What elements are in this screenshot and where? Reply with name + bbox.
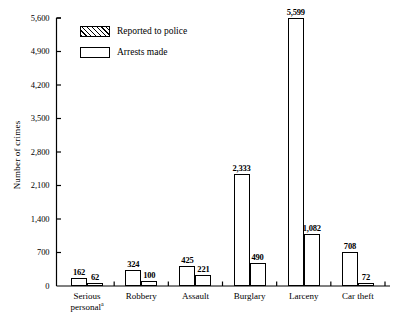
legend-swatch-arrests-made [80, 47, 110, 58]
bar-value-label: 490 [238, 252, 278, 262]
bar-value-label: 5,599 [276, 7, 316, 17]
y-axis-tick-label: 5,600 [10, 13, 50, 23]
y-axis-tick-label: 4,200 [10, 80, 50, 90]
legend-swatch-reported-to-police [80, 26, 110, 37]
y-axis-tick-label: 1,400 [10, 214, 50, 224]
bar-value-label: 425 [167, 255, 207, 265]
y-axis-tick-label: 2,800 [10, 147, 50, 157]
bar [87, 283, 103, 286]
bar [195, 275, 211, 286]
bar [250, 263, 266, 286]
bar-value-label: 100 [129, 270, 169, 280]
bar [288, 18, 304, 286]
bar-value-label: 708 [330, 241, 370, 251]
legend-label-reported-to-police: Reported to police [117, 26, 187, 36]
bar-chart: Number of crimes 07001,4002,1002,8003,50… [0, 0, 396, 316]
x-axis-tick-label: Car theft [313, 291, 396, 301]
bar-value-label: 324 [113, 259, 153, 269]
bar-value-label: 62 [75, 272, 115, 282]
legend-label-arrests-made: Arrests made [117, 47, 167, 57]
y-axis-tick-label: 2,100 [10, 180, 50, 190]
bar [304, 234, 320, 286]
y-axis-tick-label: 4,900 [10, 46, 50, 56]
bar-value-label: 72 [346, 272, 386, 282]
bar-value-label: 221 [183, 264, 223, 274]
y-axis-tick-label: 700 [10, 247, 50, 257]
bar-value-label: 2,333 [222, 163, 262, 173]
bar [234, 174, 250, 286]
y-axis-tick-label: 3,500 [10, 113, 50, 123]
bar [141, 281, 157, 286]
y-axis-tick-label: 0 [10, 281, 50, 291]
bar-value-label: 1,082 [292, 223, 332, 233]
bar [358, 283, 374, 286]
